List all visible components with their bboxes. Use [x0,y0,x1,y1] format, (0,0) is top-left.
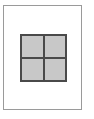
grid-2x2 [20,34,67,82]
grid-horizontal-divider [22,57,65,59]
